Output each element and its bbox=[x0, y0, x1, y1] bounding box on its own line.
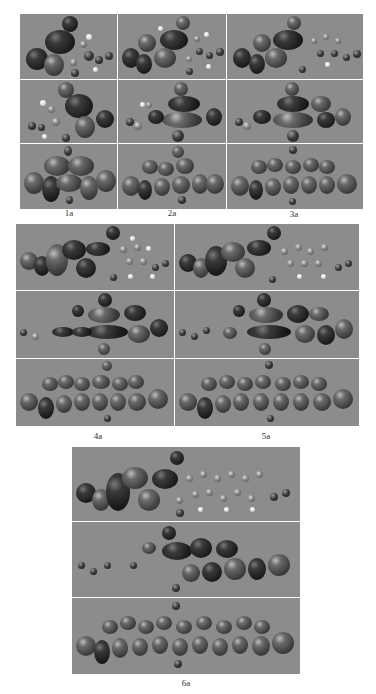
orbital-panel-3a-bottom bbox=[227, 144, 363, 209]
panel-label-4a: 4a bbox=[78, 431, 118, 441]
orbital-panel-5a-bottom bbox=[175, 359, 359, 426]
panel-label-5a: 5a bbox=[246, 431, 286, 441]
orbital-panel-1a-bottom bbox=[20, 144, 117, 209]
orbital-panel-1a-middle bbox=[20, 80, 117, 143]
orbital-panel-2a-middle bbox=[118, 80, 226, 143]
orbital-panel-6a-middle bbox=[72, 522, 300, 597]
orbital-panel-4a-top bbox=[16, 224, 174, 290]
panel-label-2a: 2a bbox=[152, 208, 192, 218]
figure-group-middle bbox=[16, 224, 359, 426]
panel-label-6a: 6a bbox=[166, 678, 206, 688]
orbital-panel-4a-bottom bbox=[16, 359, 174, 426]
orbital-panel-3a-top bbox=[227, 14, 363, 79]
orbital-panel-6a-top bbox=[72, 447, 300, 521]
orbital-panel-6a-bottom bbox=[72, 598, 300, 674]
orbital-panel-2a-bottom bbox=[118, 144, 226, 209]
orbital-panel-3a-middle bbox=[227, 80, 363, 143]
orbital-panel-1a-top bbox=[20, 14, 117, 79]
orbital-panel-4a-middle bbox=[16, 291, 174, 358]
figure-group-top bbox=[20, 14, 363, 209]
orbital-panel-5a-top bbox=[175, 224, 359, 290]
figure-group-bottom bbox=[72, 447, 300, 675]
orbital-panel-5a-middle bbox=[175, 291, 359, 358]
panel-label-1a: 1a bbox=[49, 208, 89, 218]
orbital-panel-2a-top bbox=[118, 14, 226, 79]
panel-label-3a: 3a bbox=[274, 209, 314, 219]
